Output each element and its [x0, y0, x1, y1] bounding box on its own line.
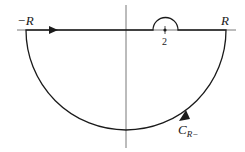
label-contour-sub: R− [186, 129, 199, 139]
label-pos-r: R [220, 13, 229, 28]
direction-arrow-axis [49, 26, 58, 34]
label-point-2: 2 [162, 36, 167, 47]
label-neg-r: −R [17, 13, 34, 28]
label-contour: CR− [178, 122, 198, 139]
label-contour-main: C [178, 122, 187, 137]
contour-diagram: −R R 2 CR− [0, 0, 245, 152]
